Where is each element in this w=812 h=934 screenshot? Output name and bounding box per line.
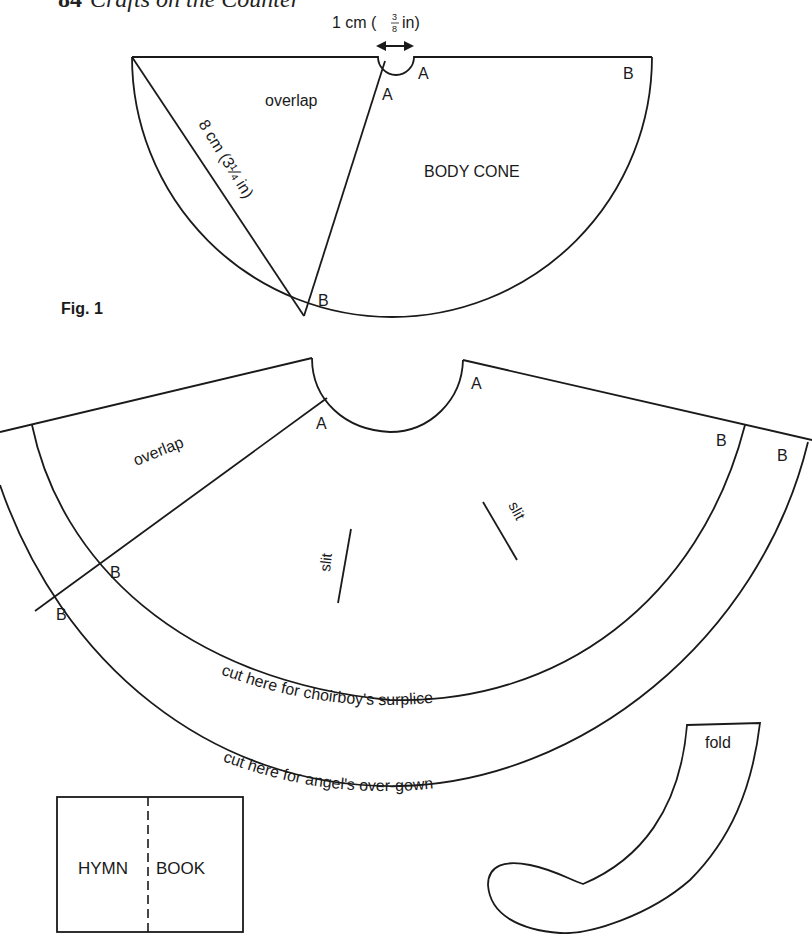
overlap-label: overlap: [265, 92, 318, 109]
overlap-label-2: overlap: [131, 433, 186, 468]
dimension-unit: in): [402, 14, 420, 31]
cut-overgown-label: cut here for angel's over-gown: [221, 748, 433, 794]
hymn-book-figure: HYMN BOOK: [57, 797, 243, 932]
gown-pattern-figure: slit slit overlap A A B B B B cut here f…: [0, 358, 812, 794]
point-b-outer-right: B: [777, 447, 788, 464]
point-a-left: A: [316, 415, 327, 432]
point-a-inner: A: [382, 86, 393, 103]
body-cone-figure: 1 cm ( 3 8 in) overlap BODY CONE 8 cm (3…: [61, 12, 652, 317]
pattern-diagram: 1 cm ( 3 8 in) overlap BODY CONE 8 cm (3…: [0, 0, 812, 934]
fraction-denominator: 8: [392, 24, 397, 34]
point-b-outer-left: B: [56, 606, 67, 623]
point-b-inner-right: B: [716, 432, 727, 449]
slit-left-label: slit: [316, 551, 335, 572]
double-arrow-icon: [376, 41, 414, 51]
fraction-numerator: 3: [392, 12, 397, 22]
point-b-right: B: [623, 65, 634, 82]
book-label: BOOK: [156, 859, 206, 878]
body-cone-label: BODY CONE: [424, 163, 520, 180]
slit-left-line: [338, 529, 351, 603]
point-b-bottom: B: [318, 292, 329, 309]
figure-caption: Fig. 1: [61, 300, 103, 317]
fold-label: fold: [705, 734, 731, 751]
radius-dimension-label: 8 cm (3¼ in): [195, 117, 257, 201]
point-a-outer: A: [418, 65, 429, 82]
point-b-inner-left: B: [110, 564, 121, 581]
dimension-top-label: 1 cm (: [332, 14, 377, 31]
sleeve-figure: fold: [488, 723, 760, 933]
point-a-right: A: [471, 375, 482, 392]
slit-right-label: slit: [505, 498, 529, 523]
hymn-label: HYMN: [78, 859, 128, 878]
